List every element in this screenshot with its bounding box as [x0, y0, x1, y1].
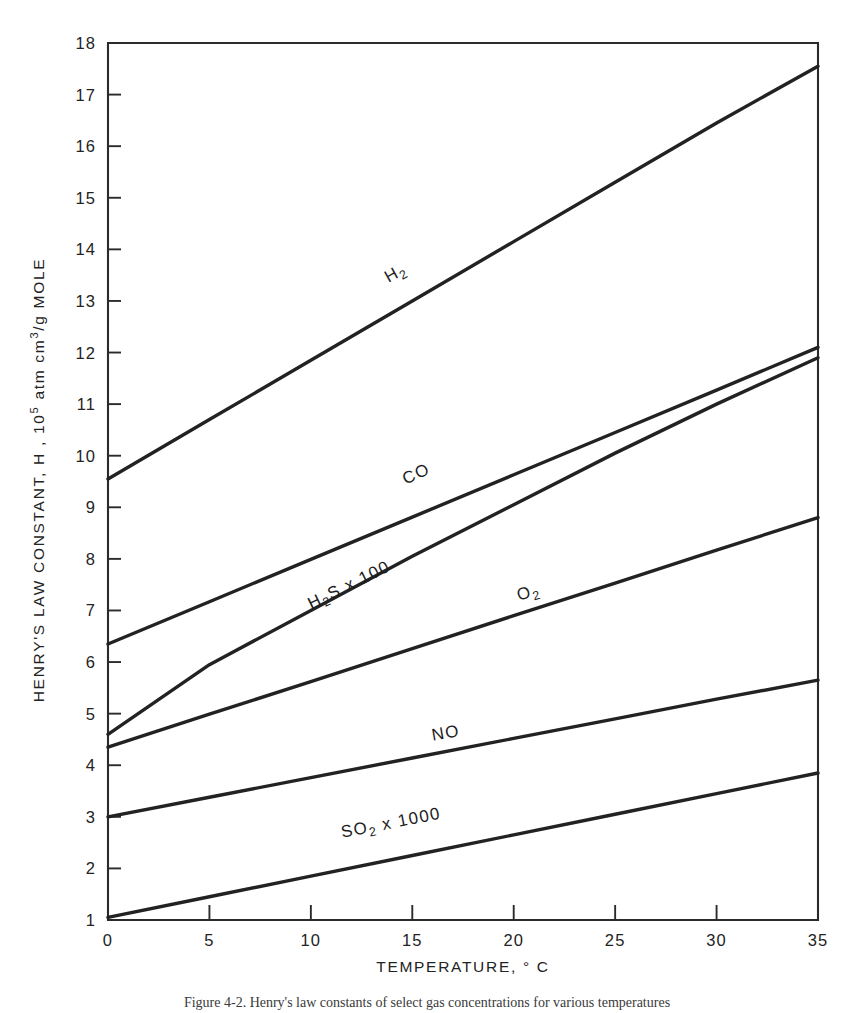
y-tick-label-12: 12	[75, 344, 96, 362]
y-tick-label-8: 8	[86, 550, 96, 568]
y-tick-label-17: 17	[75, 86, 96, 104]
chart-background	[0, 0, 854, 1013]
x-tick-label-30: 30	[706, 931, 727, 949]
henrys-law-constant-chart: 123456789101112131415161718 051015202530…	[0, 0, 854, 1013]
x-tick-label-15: 15	[402, 931, 423, 949]
y-axis-title: HENRY'S LAW CONSTANT, H , 105 atm cm3/g …	[28, 258, 47, 703]
x-tick-label-5: 5	[204, 931, 214, 949]
y-tick-label-16: 16	[75, 137, 96, 155]
x-tick-label-0: 0	[103, 931, 113, 949]
y-tick-label-9: 9	[86, 498, 96, 516]
y-tick-label-4: 4	[86, 756, 96, 774]
figure-root: 123456789101112131415161718 051015202530…	[0, 0, 854, 1013]
x-axis-title: TEMPERATURE, ° C	[376, 958, 549, 975]
x-tick-label-10: 10	[301, 931, 322, 949]
x-axis-title-text: TEMPERATURE, ° C	[376, 958, 549, 975]
y-tick-label-13: 13	[75, 292, 96, 310]
y-tick-label-5: 5	[86, 705, 96, 723]
y-tick-label-1: 1	[86, 911, 96, 929]
y-tick-label-18: 18	[75, 34, 96, 52]
figure-caption: Figure 4-2. Henry's law constants of sel…	[0, 995, 854, 1013]
y-axis-title-text: HENRY'S LAW CONSTANT, H , 105 atm cm3/g …	[28, 258, 47, 703]
y-tick-label-7: 7	[86, 601, 96, 619]
y-tick-label-6: 6	[86, 653, 96, 671]
y-tick-label-14: 14	[75, 240, 96, 258]
y-tick-label-15: 15	[75, 189, 96, 207]
y-tick-label-3: 3	[86, 808, 96, 826]
x-tick-label-20: 20	[503, 931, 524, 949]
x-tick-label-35: 35	[808, 931, 829, 949]
y-tick-label-2: 2	[86, 859, 96, 877]
y-tick-label-11: 11	[77, 395, 96, 413]
y-tick-label-10: 10	[75, 447, 96, 465]
x-tick-label-25: 25	[605, 931, 626, 949]
